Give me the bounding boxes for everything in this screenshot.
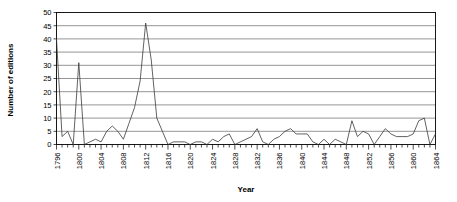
y-tick-label: 25 — [43, 74, 51, 83]
chart-figure: 05101520253035404550 1796180018041808181… — [0, 0, 457, 202]
x-axis-tick-labels: 1796180018041808181218161820182418281832… — [53, 153, 441, 170]
x-tick-label: 1852 — [365, 153, 374, 170]
x-tick-label: 1832 — [253, 153, 262, 170]
y-tick-label: 0 — [47, 140, 51, 149]
y-tick-label: 10 — [43, 114, 51, 123]
y-tick-label: 50 — [43, 8, 51, 17]
x-tick-label: 1824 — [209, 153, 218, 170]
x-tick-label: 1828 — [231, 153, 240, 170]
x-tick-label: 1860 — [409, 153, 418, 170]
x-tick-label: 1836 — [275, 153, 284, 170]
x-tick-label: 1804 — [97, 153, 106, 170]
y-tick-label: 45 — [43, 22, 51, 31]
y-tick-label: 20 — [43, 88, 51, 97]
y-tick-label: 35 — [43, 48, 51, 57]
x-tick-label: 1864 — [432, 153, 441, 170]
x-tick-label: 1812 — [142, 153, 151, 170]
y-tick-label: 15 — [43, 101, 51, 110]
x-tick-label: 1808 — [119, 153, 128, 170]
x-tick-label: 1796 — [53, 153, 62, 170]
gridlines-group — [57, 26, 436, 132]
x-axis-title: Year — [238, 185, 255, 194]
y-axis-tick-labels: 05101520253035404550 — [43, 8, 56, 149]
y-tick-label: 40 — [43, 35, 51, 44]
data-series-line — [57, 23, 436, 144]
line-chart: 05101520253035404550 1796180018041808181… — [0, 0, 457, 202]
x-tick-label: 1800 — [75, 153, 84, 170]
y-axis-title: Number of editions — [6, 43, 15, 116]
y-tick-label: 5 — [47, 127, 51, 136]
x-tick-label: 1856 — [387, 153, 396, 170]
y-tick-label: 30 — [43, 61, 51, 70]
x-tick-label: 1816 — [164, 153, 173, 170]
x-tick-label: 1848 — [342, 153, 351, 170]
x-axis-tick-marks — [57, 145, 436, 150]
x-tick-label: 1820 — [186, 153, 195, 170]
x-tick-label: 1844 — [320, 153, 329, 170]
x-tick-label: 1840 — [298, 153, 307, 170]
